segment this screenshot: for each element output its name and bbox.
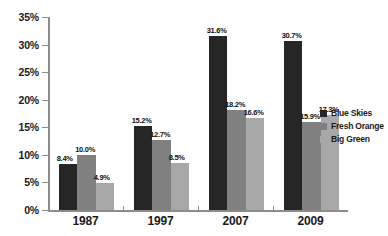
x-axis-category-label: 1997: [124, 214, 198, 228]
y-axis-tick-label: 0%: [0, 205, 39, 215]
bar-value-label: 31.6%: [207, 27, 227, 35]
y-axis-tick-label: 20%: [0, 95, 39, 105]
plot-area: 8.4%10.0%4.9%15.2%12.7%8.5%31.6%18.2%16.…: [48, 17, 348, 210]
bar-fresh-orange-1997: [152, 140, 171, 210]
x-axis-category-label: 1987: [49, 214, 123, 228]
bar-big-green-1987: [96, 183, 115, 210]
bar-big-green-2007: [246, 118, 265, 210]
legend-item-label: Blue Skies: [331, 109, 372, 118]
y-axis-tick-label: 15%: [0, 122, 39, 132]
bar-fresh-orange-2007: [227, 110, 246, 210]
bar-value-label: 18.2%: [225, 101, 245, 109]
bar-fresh-orange-2009: [302, 122, 321, 210]
y-axis-tick-label: 10%: [0, 150, 39, 160]
bar-value-label: 15.2%: [132, 117, 152, 125]
legend-swatch-icon: [320, 136, 327, 143]
y-axis-tick-label: 5%: [0, 177, 39, 187]
bar-blue-skies-2009: [284, 41, 303, 210]
bar-blue-skies-2007: [209, 36, 228, 210]
x-axis-separator-tick: [198, 206, 199, 211]
bar-value-label: 8.4%: [57, 155, 73, 163]
bar-fresh-orange-1987: [77, 155, 96, 210]
x-axis-separator-tick: [123, 206, 124, 211]
legend-item-blue-skies[interactable]: Blue Skies: [320, 107, 384, 120]
bar-value-label: 12.7%: [150, 131, 170, 139]
bar-value-label: 30.7%: [282, 32, 302, 40]
legend-swatch-icon: [320, 123, 327, 130]
bar-value-label: 10.0%: [75, 146, 95, 154]
y-axis-tick-label: 30%: [0, 40, 39, 50]
y-axis-tick-label: 25%: [0, 67, 39, 77]
legend-item-label: Big Green: [331, 135, 370, 144]
bar-value-label: 4.9%: [94, 174, 110, 182]
legend-item-big-green[interactable]: Big Green: [320, 133, 384, 146]
bar-big-green-1997: [171, 163, 190, 210]
bar-value-label: 16.6%: [244, 109, 264, 117]
x-axis-separator-tick: [273, 206, 274, 211]
legend-item-fresh-orange[interactable]: Fresh Orange: [320, 120, 384, 133]
bar-value-label: 15.9%: [300, 113, 320, 121]
legend-swatch-icon: [320, 110, 327, 117]
bar-value-label: 8.5%: [169, 154, 185, 162]
bar-chart: 0%5%10%15%20%25%30%35% 8.4%10.0%4.9%15.2…: [0, 0, 388, 236]
bar-blue-skies-1987: [59, 164, 78, 210]
chart-legend: Blue SkiesFresh OrangeBig Green: [320, 107, 384, 146]
x-axis-category-label: 2007: [199, 214, 273, 228]
x-axis-category-label: 2009: [274, 214, 348, 228]
y-axis-tick-label: 35%: [0, 12, 39, 22]
legend-item-label: Fresh Orange: [331, 122, 384, 131]
